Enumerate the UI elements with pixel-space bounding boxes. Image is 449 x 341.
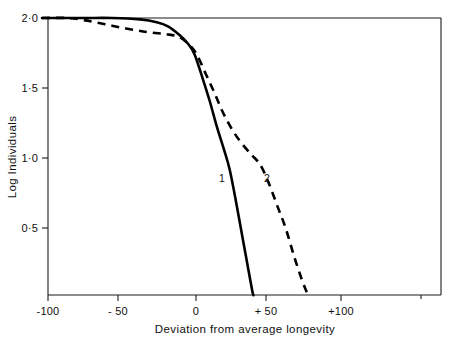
x-tick-label-0: 0 bbox=[193, 305, 199, 317]
y-axis-title: Log Individuals bbox=[6, 116, 18, 199]
curve-annotations: 1 2 bbox=[219, 172, 270, 184]
line-chart: 2·0 1·5 1·0 0·5 -100 - 50 0 + 50 +100 De… bbox=[0, 0, 449, 341]
series-1-line bbox=[42, 18, 253, 295]
y-tick-label-1-0: 1·0 bbox=[22, 152, 39, 164]
x-tick-label-minus-50: - 50 bbox=[108, 305, 128, 317]
x-tick-label-plus-100: +100 bbox=[328, 305, 354, 317]
y-tick-label-2-0: 2·0 bbox=[22, 12, 39, 24]
curve-label-1: 1 bbox=[219, 172, 225, 184]
data-series-group bbox=[42, 18, 308, 295]
x-axis-tick-labels: -100 - 50 0 + 50 +100 bbox=[37, 305, 354, 317]
figure-container: 2·0 1·5 1·0 0·5 -100 - 50 0 + 50 +100 De… bbox=[0, 0, 449, 341]
x-axis-ticks bbox=[48, 295, 421, 301]
x-tick-label-minus-100: -100 bbox=[37, 305, 60, 317]
y-tick-label-0-5: 0·5 bbox=[22, 222, 39, 234]
y-axis-ticks bbox=[42, 18, 48, 228]
x-axis-title: Deviation from average longevity bbox=[155, 323, 335, 335]
y-axis-tick-labels: 2·0 1·5 1·0 0·5 bbox=[22, 12, 39, 234]
curve-label-2: 2 bbox=[264, 172, 270, 184]
x-tick-label-plus-50: + 50 bbox=[255, 305, 278, 317]
y-tick-label-1-5: 1·5 bbox=[22, 82, 39, 94]
series-2-line bbox=[42, 18, 308, 295]
